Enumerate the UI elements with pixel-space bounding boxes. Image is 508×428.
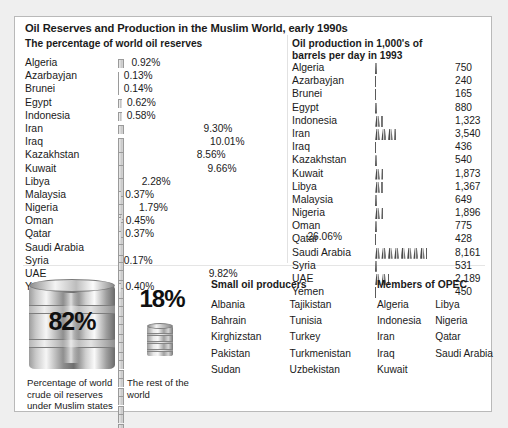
reserves-country-label: Kazakhstan xyxy=(25,149,79,160)
opec-member-item xyxy=(435,364,497,376)
reserves-value-label: 0.62% xyxy=(127,97,156,108)
opec-members-block: Members of OPEC AlgeriaLibyaIndonesiaNig… xyxy=(377,279,497,376)
reserves-country-label: Algeria xyxy=(25,57,57,68)
barrel-icon xyxy=(118,204,124,213)
barrel-icon xyxy=(118,59,124,68)
opec-member-item: Qatar xyxy=(435,331,497,343)
production-country-label: Kazakhstan xyxy=(292,154,346,165)
reserves-value-label: 0.92% xyxy=(131,57,160,68)
reserves-country-label: Malaysia xyxy=(25,189,66,200)
small-producer-item: Kirghizstan xyxy=(211,331,282,343)
opec-member-item: Nigeria xyxy=(435,315,497,327)
barrel-icon-partial xyxy=(118,72,119,81)
oil-derrick-icon-partial xyxy=(381,208,383,219)
barrel-icon-partial xyxy=(118,112,122,121)
reserves-section-title: The percentage of world oil reserves xyxy=(25,38,202,49)
production-value-label: 8,161 xyxy=(455,247,481,258)
production-derrick-bar xyxy=(375,169,385,180)
reserves-country-label: Libya xyxy=(25,176,50,187)
barrel-icon xyxy=(118,165,124,174)
small-producer-item: Sudan xyxy=(211,364,282,376)
oil-derrick-icon xyxy=(394,248,399,259)
oil-derrick-icon-partial xyxy=(375,261,377,272)
oil-derrick-icon-partial xyxy=(394,129,396,140)
reserves-bar xyxy=(118,99,124,108)
small-producer-item: Bahrain xyxy=(211,315,282,327)
reserves-bar xyxy=(118,283,122,292)
reserves-bar xyxy=(118,59,126,68)
production-value-label: 649 xyxy=(455,194,472,205)
barrel-icon xyxy=(118,125,124,134)
reserves-value-label: 0.58% xyxy=(127,110,156,121)
production-derrick-bar xyxy=(375,234,378,245)
small-producers-list: AlbaniaTajikistanBahrainTunisiaKirghizst… xyxy=(211,299,371,376)
production-country-label: Saudi Arabia xyxy=(292,247,351,258)
reserves-value-label: 0.13% xyxy=(124,70,153,81)
muslim-share-barrel-graphic: 82% xyxy=(29,279,115,371)
production-country-label: Oman xyxy=(292,220,320,231)
production-derrick-bar xyxy=(375,63,378,74)
production-derrick-bar xyxy=(375,195,378,206)
barrel-icon-partial xyxy=(118,283,121,292)
production-derrick-bar xyxy=(375,261,378,272)
oil-derrick-icon-partial xyxy=(375,221,377,232)
reserves-value-label: 0.37% xyxy=(125,228,154,239)
production-country-label: Nigeria xyxy=(292,207,325,218)
production-country-label: Qatar xyxy=(292,233,318,244)
reserves-bar xyxy=(118,217,123,226)
oil-derrick-icon xyxy=(375,248,380,259)
reserves-value-label: 9.30% xyxy=(203,123,232,134)
production-country-label: Indonesia xyxy=(292,115,337,126)
barrel-icon-partial xyxy=(118,99,122,108)
reserves-country-label: Azarbayjan xyxy=(25,70,77,81)
small-producer-item: Tunisia xyxy=(290,315,371,327)
reserves-value-label: 2.28% xyxy=(142,176,171,187)
production-derrick-bar xyxy=(375,182,384,193)
opec-member-item: Saudi Arabia xyxy=(435,348,497,360)
reserves-bar xyxy=(118,231,122,240)
small-barrel-lid xyxy=(147,323,173,329)
barrel-icon xyxy=(118,270,124,279)
oil-derrick-icon xyxy=(381,129,386,140)
production-derrick-bar xyxy=(375,208,385,219)
production-country-label: Iran xyxy=(292,128,310,139)
oil-derrick-icon-partial xyxy=(375,234,376,245)
barrel-icon xyxy=(118,424,124,428)
production-country-label: Malaysia xyxy=(292,194,333,205)
barrel-lid xyxy=(29,279,115,292)
reserves-bar xyxy=(118,270,126,279)
opec-heading: Members of OPEC xyxy=(377,279,497,290)
barrel-icon xyxy=(118,324,124,333)
reserves-country-label: UAE xyxy=(25,268,46,279)
opec-member-item: Iran xyxy=(377,331,425,343)
production-country-label: Egypt xyxy=(292,102,319,113)
oil-derrick-icon xyxy=(381,248,386,259)
barrel-icon xyxy=(118,152,124,161)
opec-member-item: Kuwait xyxy=(377,364,425,376)
oil-derrick-icon-partial xyxy=(375,155,377,166)
rest-of-world-barrel-graphic xyxy=(147,323,173,357)
reserves-bar xyxy=(118,138,126,147)
rest-share-caption: The rest of the world xyxy=(127,377,199,400)
small-producer-item: Pakistan xyxy=(211,348,282,360)
reserves-bar xyxy=(118,165,126,174)
oil-derrick-icon-partial xyxy=(375,89,376,100)
reserves-country-label: Nigeria xyxy=(25,202,58,213)
small-producer-item: Albania xyxy=(211,299,282,311)
reserves-value-label: 0.45% xyxy=(126,215,155,226)
barrel-icon-partial xyxy=(118,86,119,95)
reserves-bar xyxy=(118,112,124,121)
oil-derrick-icon xyxy=(375,208,380,219)
production-derrick-bar xyxy=(375,248,429,259)
oil-derrick-icon xyxy=(401,248,406,259)
reserves-bar xyxy=(118,178,126,187)
production-country-label: Libya xyxy=(292,181,317,192)
small-barrel-band-lower xyxy=(147,349,173,352)
production-value-label: 1,367 xyxy=(455,181,481,192)
reserves-bar xyxy=(118,125,126,134)
reserves-country-label: Egypt xyxy=(25,97,52,108)
production-value-label: 880 xyxy=(455,102,472,113)
production-value-label: 1,873 xyxy=(455,168,481,179)
production-value-label: 428 xyxy=(455,233,472,244)
production-value-label: 531 xyxy=(455,260,472,271)
